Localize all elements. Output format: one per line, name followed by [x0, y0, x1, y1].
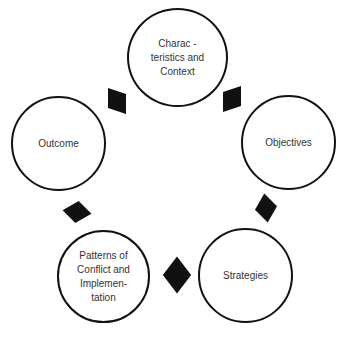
node-characteristics-and-context: Charac - teristics and Context: [127, 8, 228, 107]
connector-diamond-objectives-strategies: [255, 194, 277, 223]
node-label: Charac - teristics and Context: [151, 37, 204, 79]
node-objectives: Objectives: [241, 95, 336, 190]
node-outcome: Outcome: [11, 96, 106, 191]
node-strategies: Strategies: [198, 228, 293, 323]
connector-diamond-characteristics-objectives: [223, 86, 241, 112]
connector-diamond-patterns-outcome: [63, 201, 92, 223]
node-label: Objectives: [265, 136, 312, 150]
connector-diamond-strategies-patterns: [163, 257, 191, 294]
node-label: Patterns of Conflict and Implemen- tatio…: [77, 249, 130, 305]
node-patterns-of-conflict: Patterns of Conflict and Implemen- tatio…: [57, 230, 150, 323]
node-label: Outcome: [38, 137, 79, 151]
connector-diamond-outcome-characteristics: [108, 88, 126, 114]
node-label: Strategies: [223, 269, 268, 283]
